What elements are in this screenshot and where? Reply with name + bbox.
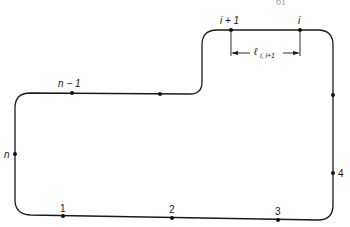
label-i-plus-1: i + 1 bbox=[220, 15, 239, 26]
point-n bbox=[13, 152, 17, 156]
page-number: 61 bbox=[276, 0, 286, 7]
contour-points bbox=[13, 28, 335, 222]
point-i-plus-1 bbox=[229, 28, 233, 32]
contour-diagram: 61 i + 1 i n − 1 n 1 2 3 4 ℓ i, i+1 bbox=[0, 0, 350, 227]
label-2: 2 bbox=[169, 204, 175, 215]
label-i: i bbox=[298, 15, 301, 26]
label-4: 4 bbox=[338, 168, 344, 179]
point-n-minus-1 bbox=[70, 91, 74, 95]
point-unlabeled-middle bbox=[158, 92, 162, 96]
label-3: 3 bbox=[275, 206, 281, 217]
point-1 bbox=[61, 214, 65, 218]
label-n-minus-1: n − 1 bbox=[58, 78, 81, 89]
label-n: n bbox=[4, 149, 10, 160]
point-2 bbox=[170, 216, 174, 220]
label-1: 1 bbox=[60, 203, 66, 214]
point-i bbox=[298, 28, 302, 32]
dimension-label-subscript: i, i+1 bbox=[260, 52, 275, 59]
point-3 bbox=[276, 218, 280, 222]
point-unlabeled-right bbox=[331, 93, 335, 97]
dimension-label-ell: ℓ bbox=[253, 46, 258, 57]
closed-contour bbox=[15, 30, 333, 220]
point-4 bbox=[331, 171, 335, 175]
